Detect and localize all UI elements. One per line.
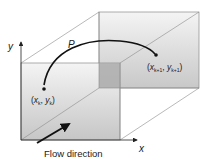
start-point-label: (xk, yk) (31, 95, 55, 106)
overlap-region (99, 63, 120, 88)
path-label: P (68, 39, 75, 50)
channel-diagram: y x P (xk, yk) (xk+1, yk+1) Flow directi… (0, 0, 207, 164)
end-point-dot (154, 53, 158, 57)
flow-direction-label: Flow direction (44, 148, 103, 159)
y-axis-label: y (7, 41, 14, 52)
x-axis-label: x (138, 143, 145, 154)
diagram-canvas: y x P (xk, yk) (xk+1, yk+1) Flow directi… (0, 0, 207, 164)
start-point-dot (42, 87, 46, 91)
